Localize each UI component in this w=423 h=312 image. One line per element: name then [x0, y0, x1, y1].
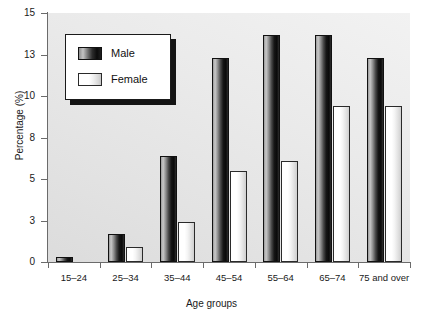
y-tick: [41, 221, 47, 222]
bar-female-5: [333, 106, 350, 262]
bar-female-1: [126, 247, 143, 262]
legend-swatch-male-icon: [78, 47, 102, 60]
x-tick: [48, 263, 49, 268]
y-tick-label: 5: [5, 174, 35, 184]
legend-item-female: Female: [78, 73, 148, 86]
x-axis-line: [47, 262, 411, 263]
x-tick: [358, 263, 359, 268]
y-tick-label: 15: [5, 8, 35, 18]
y-axis-line: [47, 12, 48, 263]
y-tick-label: 3: [5, 216, 35, 226]
bar-female-6: [385, 106, 402, 262]
y-tick: [41, 262, 47, 263]
x-tick: [151, 263, 152, 268]
x-axis-title: Age groups: [0, 298, 423, 309]
bar-male-3: [212, 58, 229, 262]
y-tick-label: 13: [5, 50, 35, 60]
y-tick-label: 0: [5, 257, 35, 267]
bar-male-5: [315, 35, 332, 262]
y-tick: [41, 55, 47, 56]
y-tick-label: 10: [5, 91, 35, 101]
bar-female-3: [230, 171, 247, 262]
legend: Male Female: [65, 34, 171, 100]
bar-male-2: [160, 156, 177, 262]
bar-female-2: [178, 222, 195, 262]
bar-female-4: [281, 161, 298, 262]
x-tick: [203, 263, 204, 268]
y-tick: [41, 96, 47, 97]
x-tick: [255, 263, 256, 268]
x-tick: [307, 263, 308, 268]
legend-label-male: Male: [111, 48, 135, 59]
bar-male-6: [367, 58, 384, 262]
y-tick: [41, 138, 47, 139]
y-tick: [41, 13, 47, 14]
x-tick: [100, 263, 101, 268]
bar-male-0: [56, 257, 73, 262]
x-tick-label: 75 and over: [354, 272, 414, 283]
bar-male-1: [108, 234, 125, 262]
bar-male-4: [263, 35, 280, 262]
y-axis-title: Percentage (%): [14, 61, 25, 191]
y-tick-label: 8: [5, 133, 35, 143]
y-tick: [41, 179, 47, 180]
x-tick: [410, 263, 411, 268]
legend-item-male: Male: [78, 47, 135, 60]
legend-swatch-female-icon: [78, 73, 102, 86]
bar-chart: Percentage (%) 0358101315 15–2425–3435–4…: [0, 0, 423, 312]
legend-label-female: Female: [111, 74, 148, 85]
